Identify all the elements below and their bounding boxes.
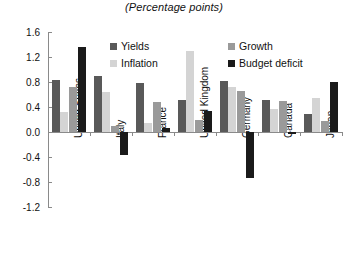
- bar: [120, 132, 128, 155]
- bar: [195, 120, 203, 133]
- bar: [102, 92, 110, 132]
- bar: [228, 87, 236, 132]
- y-tick-label: -0.8: [0, 177, 40, 188]
- legend-swatch-icon: [110, 43, 117, 50]
- bar: [270, 109, 278, 132]
- legend-swatch-icon: [228, 60, 235, 67]
- y-tick-label: 1.2: [0, 52, 40, 63]
- bar: [246, 132, 254, 178]
- bar: [52, 80, 60, 133]
- bar: [220, 81, 228, 132]
- legend-label: Inflation: [121, 57, 158, 69]
- bar: [111, 126, 119, 132]
- legend-item: Budget deficit: [228, 57, 303, 69]
- bar: [186, 51, 194, 132]
- bar: [262, 100, 270, 133]
- chart-legend: YieldsGrowthInflationBudget deficit: [110, 40, 330, 76]
- x-tick-mark: [216, 132, 217, 136]
- x-tick-mark: [300, 132, 301, 136]
- legend-swatch-icon: [228, 43, 235, 50]
- bar-chart: (Percentage points) 1.61.20.80.40.0-0.4-…: [0, 0, 348, 267]
- bar: [153, 102, 161, 132]
- chart-title: (Percentage points): [0, 1, 348, 13]
- y-tick-label: 0.0: [0, 127, 40, 138]
- x-tick-mark: [258, 132, 259, 136]
- bar: [279, 101, 287, 132]
- bar: [288, 132, 296, 134]
- legend-item: Growth: [228, 40, 273, 52]
- y-tick-label: 1.6: [0, 27, 40, 38]
- bar: [94, 76, 102, 132]
- zero-baseline: [48, 132, 342, 133]
- y-tick-mark: [48, 207, 52, 208]
- bar: [144, 123, 152, 132]
- bar: [321, 121, 329, 132]
- legend-label: Growth: [239, 40, 273, 52]
- x-tick-mark: [342, 132, 343, 136]
- legend-label: Budget deficit: [239, 57, 303, 69]
- legend-item: Inflation: [110, 57, 158, 69]
- legend-swatch-icon: [110, 60, 117, 67]
- bar: [204, 111, 212, 132]
- y-tick-mark: [48, 182, 52, 183]
- x-tick-mark: [132, 132, 133, 136]
- x-tick-mark: [174, 132, 175, 136]
- bar: [136, 83, 144, 132]
- bar: [60, 112, 68, 132]
- bar: [330, 82, 338, 132]
- bar: [69, 87, 77, 132]
- bar: [304, 114, 312, 132]
- legend-item: Yields: [110, 40, 149, 52]
- bar: [78, 47, 86, 132]
- y-tick-label: 0.8: [0, 77, 40, 88]
- y-tick-label: -1.2: [0, 202, 40, 213]
- bar: [162, 128, 170, 132]
- bar: [237, 91, 245, 132]
- legend-label: Yields: [121, 40, 149, 52]
- bar: [312, 98, 320, 132]
- bar: [178, 100, 186, 132]
- x-tick-mark: [90, 132, 91, 136]
- y-tick-label: 0.4: [0, 102, 40, 113]
- y-tick-label: -0.4: [0, 152, 40, 163]
